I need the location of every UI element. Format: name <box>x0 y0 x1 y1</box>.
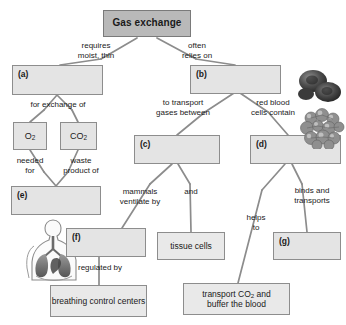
node-label: (b) <box>196 69 207 79</box>
node-carbon-dioxide: CO2 <box>60 122 97 150</box>
edge-label-mammals-ventilate-by: mammals ventilate by <box>108 187 172 206</box>
hemoglobin-molecule-image <box>298 107 346 149</box>
edge-label-waste-product-of: waste product of <box>55 156 107 175</box>
node-label: breathing control centers <box>52 296 146 306</box>
node-label: CO2 <box>70 131 87 142</box>
cropped-row-artifact <box>60 0 240 3</box>
edge-label-regulated-by: regulated by <box>64 263 136 273</box>
node-g-blank[interactable]: (g) <box>273 232 341 260</box>
node-oxygen: O2 <box>13 122 47 150</box>
edge-label-red-blood-cells-contain: red blood cells contain <box>240 98 306 117</box>
node-label: tissue cells <box>170 241 212 251</box>
node-transport-co2-buffer-blood: transport CO2 andbuffer the blood <box>183 283 290 315</box>
edge-label-binds-and-transports: binds and transports <box>281 186 343 205</box>
node-label: (c) <box>140 139 150 149</box>
node-tissue-cells: tissue cells <box>157 232 225 260</box>
node-b-blank[interactable]: (b) <box>190 65 281 94</box>
node-label: (e) <box>17 190 27 200</box>
edge-label-to-transport-gases-between: to transport gases between <box>144 98 222 117</box>
node-f-blank[interactable]: (f) <box>66 228 146 257</box>
edge-label-requires-moist-thin: requires moist, thin <box>60 41 132 60</box>
node-label: Gas exchange <box>112 17 181 29</box>
concept-map-diagram: Gas exchange (a) (b) O2 CO2 (c) (d) (e) … <box>0 0 346 325</box>
edge-label-and: and <box>176 187 206 197</box>
edge-label-often-relies-on: often relies on <box>162 41 232 60</box>
node-label: (f) <box>72 232 81 242</box>
node-breathing-control-centers: breathing control centers <box>50 285 147 317</box>
edge-label-needed-for: needed for <box>7 156 53 175</box>
node-label: transport CO2 andbuffer the blood <box>202 289 271 310</box>
node-e-blank[interactable]: (e) <box>11 186 101 215</box>
node-label: (a) <box>18 69 28 79</box>
node-gas-exchange: Gas exchange <box>103 10 191 37</box>
node-label: (d) <box>256 139 267 149</box>
node-a-blank[interactable]: (a) <box>12 65 103 95</box>
node-c-blank[interactable]: (c) <box>134 135 220 164</box>
edge-label-helps-to: helps to <box>238 213 274 232</box>
node-label: O2 <box>25 131 36 142</box>
node-label: (g) <box>279 236 290 246</box>
edge-label-for-exchange-of: for exchange of <box>12 100 104 110</box>
